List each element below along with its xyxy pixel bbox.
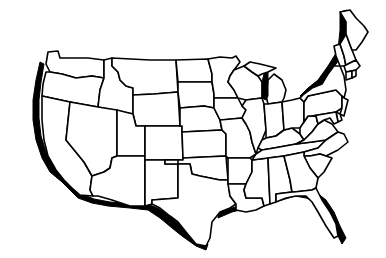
- state-mi[interactable]: [266, 74, 286, 104]
- state-ia[interactable]: [214, 98, 246, 120]
- state-ct[interactable]: [346, 71, 352, 80]
- state-co[interactable]: [145, 126, 183, 160]
- state-ri[interactable]: [352, 70, 356, 78]
- states-layer: [42, 10, 368, 246]
- state-wy[interactable]: [133, 92, 180, 126]
- state-sd[interactable]: [178, 82, 214, 108]
- state-fl[interactable]: [276, 188, 338, 238]
- us-outline-map: [0, 0, 386, 258]
- state-oh[interactable]: [282, 98, 304, 130]
- state-nd[interactable]: [176, 59, 212, 82]
- state-ks[interactable]: [182, 130, 226, 158]
- state-nj[interactable]: [340, 96, 348, 116]
- lake-michigan: [262, 72, 268, 100]
